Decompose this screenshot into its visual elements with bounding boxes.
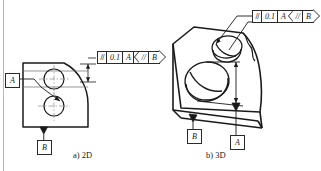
datum-label-b-2d[interactable]: B bbox=[37, 140, 52, 155]
figure-canvas: // 0.1 A // B // 0.1 A // B A B B A a) 2… bbox=[0, 0, 321, 171]
parallelism-symbol-icon-datum-3d: // bbox=[293, 10, 303, 23]
datum-label-a-3d[interactable]: A bbox=[230, 135, 245, 150]
frame-left-point-2d bbox=[134, 51, 139, 64]
frame-left-point-3d bbox=[288, 10, 293, 23]
caption-2d: a) 2D bbox=[73, 150, 92, 160]
parallelism-symbol-icon-3d: // bbox=[252, 10, 261, 23]
datum-b-triangle-2d bbox=[40, 127, 48, 140]
hole-lower-3d bbox=[183, 60, 231, 102]
datum-label-b-3d[interactable]: B bbox=[187, 129, 202, 144]
feature-control-frame-2d[interactable]: // 0.1 A bbox=[97, 51, 134, 64]
parallelism-symbol-icon-datum-2d: // bbox=[139, 51, 149, 64]
datum-b-indicator-3d bbox=[189, 114, 197, 129]
hole-upper-3d bbox=[211, 34, 243, 62]
tolerance-value-2d: 0.1 bbox=[106, 51, 122, 64]
caption-3d: b) 3D bbox=[206, 150, 226, 160]
fcf-leader-3d bbox=[216, 16, 252, 50]
part-outline-2d bbox=[23, 63, 88, 127]
datum-target-frame-3d[interactable]: // B bbox=[288, 10, 320, 23]
datum-target-frame-2d[interactable]: // B bbox=[134, 51, 166, 64]
datum-reference-a-2d: A bbox=[122, 51, 134, 64]
frame-right-point-3d bbox=[314, 10, 320, 23]
feature-control-frame-3d[interactable]: // 0.1 A bbox=[252, 10, 289, 23]
datum-label-a-2d[interactable]: A bbox=[5, 73, 20, 88]
parallelism-symbol-icon-2d: // bbox=[97, 51, 106, 64]
tolerance-value-3d: 0.1 bbox=[261, 10, 277, 23]
tolerance-zone-dimension-2d bbox=[80, 58, 96, 82]
frame-right-point-2d bbox=[160, 51, 166, 64]
